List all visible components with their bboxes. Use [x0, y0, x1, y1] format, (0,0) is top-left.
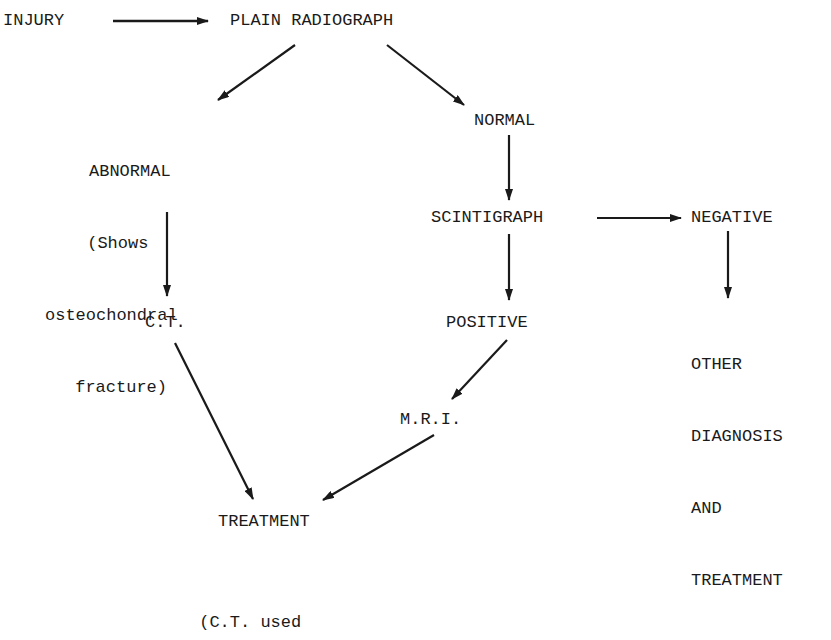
node-mri: M.R.I.	[400, 408, 461, 432]
node-scintigraph: SCINTIGRAPH	[431, 206, 543, 230]
node-injury: INJURY	[3, 9, 64, 33]
arrow-ct-to-treatment	[175, 343, 253, 499]
node-treatment-note: (C.T. used for progress monitoring)	[189, 565, 322, 640]
node-other-diagnosis: OTHER DIAGNOSIS AND TREATMENT	[691, 305, 783, 640]
node-other-line-4: TREATMENT	[691, 569, 783, 593]
node-treatment-note-line-1: (C.T. used	[189, 611, 322, 634]
node-abnormal-line-1: ABNORMAL	[45, 160, 178, 184]
node-other-line-1: OTHER	[691, 353, 783, 377]
node-positive: POSITIVE	[446, 311, 528, 335]
arrow-radiograph-to-normal	[387, 45, 464, 105]
arrow-positive-to-mri	[452, 340, 507, 399]
node-plain-radiograph: PLAIN RADIOGRAPH	[230, 9, 393, 33]
node-normal: NORMAL	[474, 109, 535, 133]
node-abnormal-line-2: (Shows	[45, 232, 178, 256]
node-abnormal-line-4: fracture)	[45, 376, 178, 400]
arrow-radiograph-to-abnormal	[218, 45, 295, 100]
node-other-line-3: AND	[691, 497, 783, 521]
node-negative: NEGATIVE	[691, 206, 773, 230]
node-treatment: TREATMENT	[218, 510, 310, 534]
flowchart-canvas: INJURY PLAIN RADIOGRAPH ABNORMAL (Shows …	[0, 0, 831, 640]
arrow-mri-to-treatment	[323, 435, 434, 500]
node-other-line-2: DIAGNOSIS	[691, 425, 783, 449]
node-ct: C.T.	[145, 311, 186, 335]
node-abnormal: ABNORMAL (Shows osteochondral fracture)	[45, 112, 178, 448]
